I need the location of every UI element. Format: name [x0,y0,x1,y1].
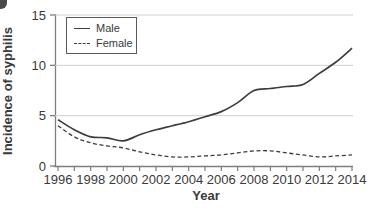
male-line [58,48,352,141]
x-tick-label-2014: 2014 [338,172,367,187]
x-tick-label-2000: 2000 [109,172,138,187]
y-tick-label-5: 5 [39,108,46,123]
legend-item-female: Female [74,37,130,49]
x-tick-label-2002: 2002 [142,172,171,187]
x-tick-label-2006: 2006 [207,172,236,187]
legend-label-female: Female [96,38,133,49]
legend-item-male: Male [74,22,130,34]
female-line [58,126,352,157]
syphilis-incidence-chart: 2014201220102008200620042002200019981996… [0,0,380,212]
y-axis-title: Incidence of syphilis [0,27,15,155]
legend-label-male: Male [96,23,120,34]
x-tick-label-2010: 2010 [272,172,301,187]
legend: Male Female [66,17,137,54]
x-tick-label-2008: 2008 [240,172,269,187]
x-tick-label-1996: 1996 [44,172,73,187]
x-axis-title: Year [192,188,219,203]
y-tick-label-15: 15 [32,8,46,23]
y-tick-label-10: 10 [32,58,46,73]
y-tick-label-0: 0 [39,159,46,174]
female-line-swatch-icon [74,43,90,44]
male-line-swatch-icon [74,28,90,29]
x-tick-label-2004: 2004 [174,172,203,187]
chart-canvas: 2014201220102008200620042002200019981996… [0,0,380,212]
x-tick-label-1998: 1998 [76,172,105,187]
x-tick-label-2012: 2012 [305,172,334,187]
